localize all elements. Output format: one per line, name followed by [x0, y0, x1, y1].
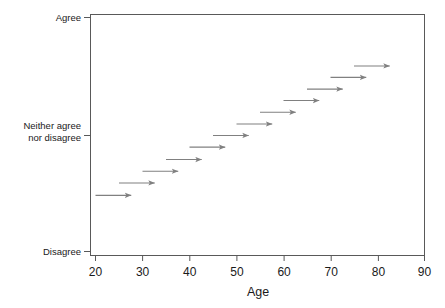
x-tick-label-70: 70 — [325, 265, 339, 279]
y-tick-label-agree: Agree — [56, 12, 81, 23]
x-tick-label-30: 30 — [136, 265, 150, 279]
x-axis-title: Age — [247, 285, 269, 299]
chart-figure: Agree Neither agree nor disagree Disagre… — [0, 0, 445, 308]
x-tick-label-40: 40 — [183, 265, 197, 279]
y-tick-label-disagree: Disagree — [43, 246, 81, 257]
chart-background — [0, 0, 445, 308]
x-tick-label-90: 90 — [418, 265, 432, 279]
y-tick-label-neutral-line2: nor disagree — [28, 132, 81, 143]
x-tick-label-60: 60 — [277, 265, 291, 279]
x-tick-label-20: 20 — [89, 265, 103, 279]
x-tick-label-80: 80 — [372, 265, 386, 279]
y-tick-label-neutral-line1: Neither agree — [23, 120, 81, 131]
x-tick-label-50: 50 — [230, 265, 244, 279]
chart-svg: Agree Neither agree nor disagree Disagre… — [0, 0, 445, 308]
